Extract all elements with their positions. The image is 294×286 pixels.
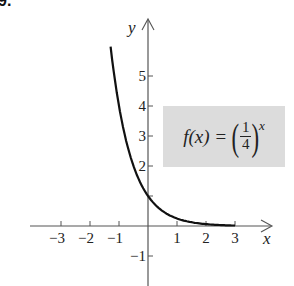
x-tick-label: −1 — [107, 230, 123, 246]
x-tick-label: 2 — [202, 230, 210, 246]
x-tick-label: 3 — [231, 230, 239, 246]
formula-fraction: 1 4 — [240, 120, 252, 153]
left-paren: ( — [232, 118, 240, 156]
y-tick-label: 3 — [139, 128, 147, 144]
x-tick-label: 1 — [173, 230, 181, 246]
fraction-numerator: 1 — [240, 120, 252, 137]
x-tick-label: −2 — [78, 230, 94, 246]
x-axis: −3−2−1123 x — [30, 220, 272, 248]
problem-number: 9. — [0, 0, 11, 9]
y-tick-label: −1 — [130, 248, 146, 264]
y-tick-label: 4 — [139, 98, 147, 114]
y-tick-label: 5 — [139, 68, 147, 84]
x-axis-label: x — [262, 229, 271, 248]
formula-exponent: x — [259, 118, 265, 134]
formula-lhs: f(x) — [183, 126, 209, 148]
formula-equals: = — [216, 126, 227, 148]
formula-label: f(x) = ( 1 4 ) x — [163, 106, 285, 167]
x-tick-label: −3 — [49, 230, 65, 246]
right-paren: ) — [252, 118, 260, 156]
y-axis-label: y — [126, 18, 136, 37]
fraction-denominator: 4 — [242, 137, 250, 153]
y-tick-label: 2 — [139, 158, 147, 174]
